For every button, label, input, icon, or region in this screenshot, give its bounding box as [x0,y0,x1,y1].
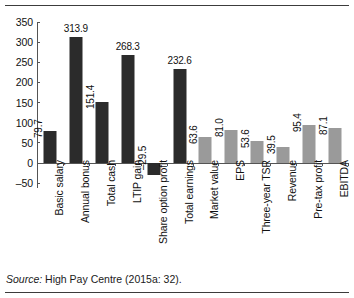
y-axis-tick: 100 [0,118,33,128]
bar-value-label: 232.6 [168,56,192,66]
bar-value-label: 81.0 [215,119,225,138]
bar-ebitda[interactable] [329,128,342,163]
source-note-label: Source: [6,273,42,285]
category-label-ebitda: EBITDA [339,160,350,197]
bar-ltip-gain[interactable] [121,55,134,163]
figure-top-rule [5,5,349,6]
bar-value-label: 79.7 [34,119,44,138]
figure-bottom-rule [5,292,349,293]
category-axis-labels: Basic salaryAnnual bonusTotal cashLTIP g… [37,160,348,256]
y-axis-tick: 200 [0,77,33,87]
y-axis-tick: 0 [0,158,33,168]
bar-value-label: 63.6 [189,126,199,145]
y-axis-tick: 150 [0,98,33,108]
bar-value-label: 39.5 [267,135,277,154]
category-label-ltip-gain: LTIP gain [132,160,143,203]
bar-total-earnings[interactable] [173,69,186,163]
bar-value-label: 95.4 [293,113,303,132]
y-axis-tick: –50 [0,178,33,188]
category-label-three-year-tsr: Three-year TSR [261,160,272,234]
category-label-total-earnings: Total earnings [184,160,195,224]
y-axis-tick: 250 [0,57,33,67]
y-axis-tick: 300 [0,37,33,47]
category-label-annual-bonus: Annual bonus [80,160,91,223]
category-label-market-value: Market value [209,160,220,219]
category-label-total-cash: Total cash [106,160,117,206]
bar-value-label: 151.4 [86,85,96,109]
category-label-basic-salary: Basic salary [54,160,65,215]
y-axis-tick: 50 [0,138,33,148]
bar-value-label: 53.6 [241,130,251,149]
category-label-pre-tax-profit: Pre-tax profit [313,160,324,219]
bar-value-label: 87.1 [319,116,329,135]
bar-basic-salary[interactable] [43,131,56,163]
bar-value-label: 268.3 [116,42,140,52]
bar-pre-tax-profit[interactable] [303,125,316,163]
source-note-text: High Pay Centre (2015a: 32). [45,273,182,285]
bar-annual-bonus[interactable] [69,37,82,163]
bar-value-label: 313.9 [64,24,88,34]
source-note: Source: High Pay Centre (2015a: 32). [6,273,182,285]
bar-total-cash[interactable] [95,102,108,163]
category-label-share-option-profit: Share option profit [158,160,169,244]
bar-eps[interactable] [225,130,238,163]
y-axis-tick: 350 [0,17,33,27]
category-label-eps: EPS [235,160,246,181]
category-label-revenue: Revenue [287,160,298,201]
figure-container: 350300250200150100500–50 79.7313.9151.42… [0,0,354,298]
